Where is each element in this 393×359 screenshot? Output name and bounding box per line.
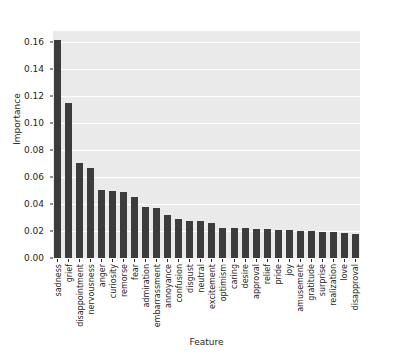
x-tick-label: grief: [64, 264, 73, 282]
x-tick-mark: [79, 259, 80, 262]
bar: [120, 192, 127, 258]
x-tick-label: gratitude: [307, 264, 316, 301]
x-tick-label: pride: [274, 264, 283, 285]
x-tick-label: excitement: [207, 264, 216, 309]
x-tick-label: remorse: [119, 264, 128, 297]
x-tick-label: disgust: [185, 264, 194, 293]
x-tick-mark: [90, 259, 91, 262]
y-axis: 0.000.020.040.060.080.100.120.140.16: [0, 31, 50, 258]
x-tick: neutral: [197, 259, 204, 334]
bar: [275, 230, 282, 258]
x-tick-mark: [112, 259, 113, 262]
x-tick-mark: [256, 259, 257, 262]
x-tick-mark: [68, 259, 69, 262]
x-tick-mark: [200, 259, 201, 262]
x-tick-mark: [101, 259, 102, 262]
bar: [208, 223, 215, 258]
x-tick-label: admiration: [141, 264, 150, 308]
x-tick-mark: [167, 259, 168, 262]
bar: [319, 232, 326, 258]
bar: [175, 219, 182, 258]
x-tick: remorse: [120, 259, 127, 334]
y-axis-label: Importance: [12, 64, 22, 174]
x-tick-label: embarrassment: [152, 264, 161, 327]
x-tick: love: [341, 259, 348, 334]
x-tick-label: approval: [252, 264, 261, 299]
x-tick: joy: [286, 259, 293, 334]
bar: [231, 228, 238, 258]
bar: [242, 228, 249, 258]
x-tick-label: love: [340, 264, 349, 281]
y-tick-label: 0.00: [24, 253, 44, 263]
bar: [352, 234, 359, 258]
bar-series: [53, 31, 360, 258]
x-tick: disgust: [186, 259, 193, 334]
y-tick-label: 0.14: [24, 64, 44, 74]
x-tick-label: relief: [263, 264, 272, 284]
x-tick: caring: [231, 259, 238, 334]
x-tick-mark: [57, 259, 58, 262]
x-tick-mark: [156, 259, 157, 262]
y-tick-label: 0.08: [24, 145, 44, 155]
x-tick: desire: [242, 259, 249, 334]
x-tick: admiration: [142, 259, 149, 334]
x-tick-mark: [355, 259, 356, 262]
bar: [264, 229, 271, 258]
x-tick-mark: [322, 259, 323, 262]
x-tick: realization: [330, 259, 337, 334]
x-tick-label: sadness: [53, 264, 62, 296]
plot-area: [53, 31, 360, 258]
x-tick: annoyance: [164, 259, 171, 334]
x-tick: surprise: [319, 259, 326, 334]
bar: [197, 221, 204, 258]
bar: [98, 190, 105, 258]
bar: [54, 40, 61, 258]
figure: 0.000.020.040.060.080.100.120.140.16 Imp…: [0, 0, 393, 359]
x-tick-mark: [134, 259, 135, 262]
x-tick: disapproval: [352, 259, 359, 334]
x-tick-label: nervousness: [86, 264, 95, 314]
bar: [330, 232, 337, 258]
x-tick-label: joy: [285, 264, 294, 276]
y-tick-label: 0.12: [24, 91, 44, 101]
x-tick: amusement: [297, 259, 304, 334]
x-tick-label: caring: [230, 264, 239, 289]
bar: [109, 191, 116, 258]
x-tick-mark: [145, 259, 146, 262]
x-tick-label: desire: [241, 264, 250, 288]
x-tick-label: amusement: [296, 264, 305, 312]
y-tick-label: 0.10: [24, 118, 44, 128]
bar: [131, 197, 138, 258]
x-tick: optimism: [219, 259, 226, 334]
x-tick-mark: [189, 259, 190, 262]
y-tick-label: 0.06: [24, 172, 44, 182]
x-tick-label: optimism: [218, 264, 227, 301]
bar: [341, 233, 348, 258]
bar: [286, 230, 293, 258]
x-tick-mark: [300, 259, 301, 262]
y-tick-label: 0.04: [24, 199, 44, 209]
x-axis-label: Feature: [53, 337, 360, 347]
x-tick-mark: [234, 259, 235, 262]
x-tick-mark: [344, 259, 345, 262]
x-tick-label: realization: [329, 264, 338, 306]
x-tick-label: confusion: [174, 264, 183, 303]
bar: [65, 103, 72, 258]
x-tick: confusion: [175, 259, 182, 334]
bar: [186, 221, 193, 258]
x-tick-mark: [211, 259, 212, 262]
x-tick: relief: [264, 259, 271, 334]
x-tick: approval: [253, 259, 260, 334]
x-tick: nervousness: [87, 259, 94, 334]
x-tick-mark: [333, 259, 334, 262]
bar: [76, 163, 83, 258]
y-tick-label: 0.16: [24, 37, 44, 47]
x-tick-label: annoyance: [163, 264, 172, 308]
x-tick: curiosity: [109, 259, 116, 334]
x-tick-label: curiosity: [108, 264, 117, 298]
x-tick-mark: [311, 259, 312, 262]
x-tick-label: disappointment: [75, 264, 84, 327]
x-tick: gratitude: [308, 259, 315, 334]
x-tick: pride: [275, 259, 282, 334]
bar: [153, 208, 160, 258]
